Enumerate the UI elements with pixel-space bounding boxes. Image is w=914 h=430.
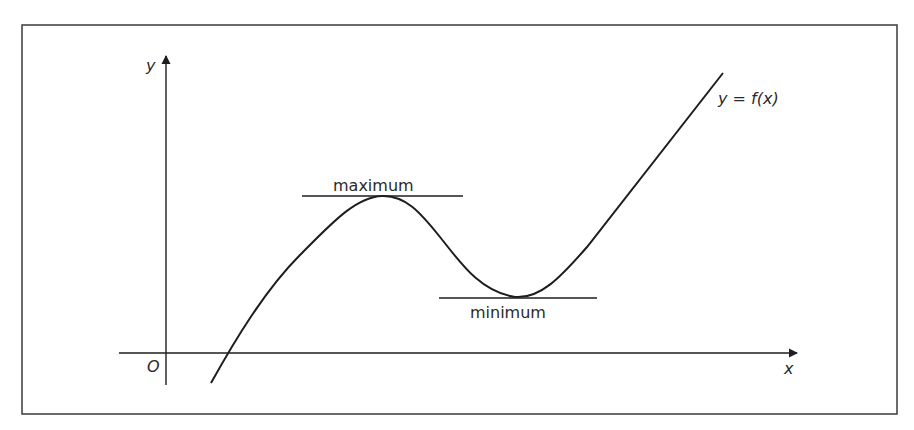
- function-graph-figure: y x O maximum minimum y = f(x): [0, 0, 914, 430]
- y-axis-label: y: [145, 56, 156, 75]
- function-curve: [211, 73, 723, 383]
- curve-label: y = f(x): [717, 89, 779, 108]
- x-axis-label: x: [783, 359, 794, 378]
- origin-label: O: [147, 357, 160, 376]
- minimum-label: minimum: [470, 303, 546, 322]
- figure-frame: [22, 25, 897, 414]
- maximum-label: maximum: [333, 176, 414, 195]
